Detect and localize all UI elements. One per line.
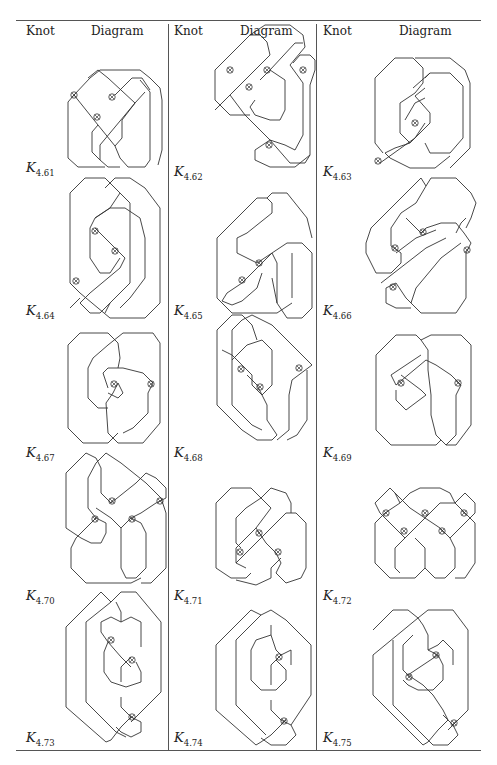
knot-diagram-k4-72 <box>370 488 480 583</box>
knot-label: K4.66 <box>323 303 352 321</box>
knot-diagram-k4-67 <box>68 333 168 448</box>
knot-label: K4.74 <box>174 730 203 748</box>
knot-label: K4.68 <box>174 445 203 463</box>
header-knot: Knot <box>323 24 352 38</box>
bottom-rule <box>16 750 481 751</box>
knot-diagram-k4-70 <box>66 453 171 588</box>
knot-label: K4.63 <box>323 164 352 182</box>
knot-diagram-k4-71 <box>216 488 316 588</box>
knot-diagram-k4-62 <box>215 25 325 175</box>
knot-label: K4.65 <box>174 303 203 321</box>
knot-diagram-k4-64 <box>65 178 165 318</box>
knot-label: K4.73 <box>26 730 55 748</box>
knot-label: K4.67 <box>26 445 55 463</box>
knot-label: K4.71 <box>174 588 203 606</box>
knot-diagram-k4-65 <box>217 193 317 328</box>
header-knot: Knot <box>26 24 55 38</box>
knot-diagram-k4-66 <box>366 178 481 318</box>
knot-label: K4.62 <box>174 164 203 182</box>
knot-diagram-k4-69 <box>376 335 476 450</box>
header-diagram: Diagram <box>91 24 144 38</box>
knot-diagram-k4-68 <box>217 315 317 450</box>
header-knot: Knot <box>174 24 203 38</box>
knot-label: K4.70 <box>26 588 55 606</box>
knot-label: K4.64 <box>26 303 55 321</box>
knot-label: K4.72 <box>323 588 352 606</box>
knot-diagram-k4-73 <box>66 592 166 747</box>
knot-diagram-k4-63 <box>375 58 475 173</box>
knot-label: K4.69 <box>323 445 352 463</box>
knot-diagram-k4-61 <box>60 70 170 170</box>
knot-diagram-k4-75 <box>373 610 473 750</box>
top-rule <box>16 20 481 21</box>
knot-diagram-k4-74 <box>216 610 316 750</box>
header-diagram: Diagram <box>399 24 452 38</box>
knot-label: K4.61 <box>26 160 55 178</box>
knot-label: K4.75 <box>323 730 352 748</box>
